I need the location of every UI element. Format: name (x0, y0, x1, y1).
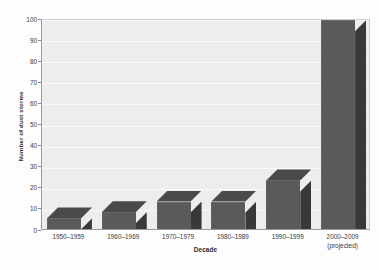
bar-top-face (266, 169, 311, 180)
bar (102, 201, 147, 229)
bar-side-face (355, 20, 366, 229)
bar-top-face (47, 207, 92, 218)
bar-side-face (136, 212, 147, 229)
x-tick-label: 1990–1999 (258, 233, 318, 242)
bar-side-face (245, 202, 256, 229)
bar-front-face (157, 202, 191, 229)
bar (157, 191, 202, 229)
bar-top-face (157, 191, 202, 202)
bar-front-face (102, 212, 136, 229)
x-tick-label: 1980–1989 (203, 233, 263, 242)
bar-top-face (102, 201, 147, 212)
y-axis-title: Number of dust storms (14, 19, 28, 234)
x-axis-title: Decade (41, 246, 370, 253)
bar-front-face (47, 218, 81, 229)
x-tick-label: 1950–1959 (38, 233, 98, 242)
bar-series (42, 20, 369, 229)
bar-side-face (81, 218, 92, 229)
bar-front-face (266, 180, 300, 229)
bar-side-face (191, 202, 202, 229)
bar (266, 169, 311, 229)
bar-side-face (300, 180, 311, 229)
bar-top-face (211, 191, 256, 202)
dust-storms-bar-chart: 0102030405060708090100 Number of dust st… (0, 0, 379, 270)
plot-area (41, 19, 370, 230)
bar-front-face (211, 202, 245, 229)
bar-front-face (321, 20, 355, 229)
x-tick-label: 1970–1979 (148, 233, 208, 242)
bar (321, 19, 366, 229)
bar (47, 207, 92, 229)
bar (211, 191, 256, 229)
x-tick-label: 1960–1969 (93, 233, 153, 242)
